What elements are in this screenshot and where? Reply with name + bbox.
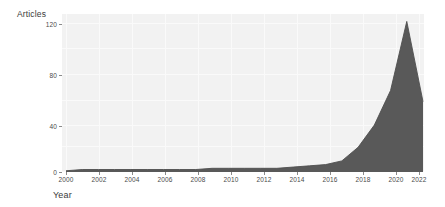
x-axis-tick: 2016	[315, 172, 345, 183]
y-axis-tick: 80	[50, 70, 62, 80]
area-series-fill	[66, 21, 423, 172]
area-chart: Articles 120 80 40 0	[0, 0, 445, 207]
x-axis-tick-label: 2008	[183, 176, 213, 183]
x-axis-tick-mark	[132, 172, 133, 175]
x-axis-tick: 2008	[183, 172, 213, 183]
plot-area	[62, 14, 424, 172]
x-axis-tick-mark	[396, 172, 397, 175]
x-axis-tick-mark	[363, 172, 364, 175]
x-axis-tick: 2014	[282, 172, 312, 183]
x-axis-tick-label: 2014	[282, 176, 312, 183]
y-axis-tick: 40	[50, 121, 62, 131]
x-axis-tick: 2006	[150, 172, 180, 183]
x-axis-tick: 2004	[117, 172, 147, 183]
area-series	[62, 14, 424, 172]
x-axis-tick-label: 2000	[51, 176, 81, 183]
x-axis-tick-label: 2022	[404, 176, 434, 183]
x-axis-tick-label: 2004	[117, 176, 147, 183]
x-axis-tick-mark	[165, 172, 166, 175]
x-axis-tick: 2010	[216, 172, 246, 183]
x-axis-tick-group: 2000 2002 2004 2006 2008 2010 2012 2014	[62, 172, 424, 192]
x-axis-tick-mark	[330, 172, 331, 175]
x-axis-tick-label: 2006	[150, 176, 180, 183]
x-axis-tick-mark	[66, 172, 67, 175]
y-axis-tick-label: 120	[46, 21, 57, 28]
x-axis-tick-label: 2016	[315, 176, 345, 183]
x-axis-tick-label: 2012	[249, 176, 279, 183]
x-axis-tick: 2018	[348, 172, 378, 183]
x-axis-tick: 2022	[404, 172, 434, 183]
y-axis-tick-label: 80	[50, 72, 57, 79]
x-axis-tick-mark	[264, 172, 265, 175]
y-axis-tick: 120	[46, 19, 62, 29]
x-axis-tick-label: 2018	[348, 176, 378, 183]
x-axis-tick: 2002	[84, 172, 114, 183]
x-axis-tick-mark	[297, 172, 298, 175]
x-axis-tick: 2000	[51, 172, 81, 183]
x-axis-tick-mark	[198, 172, 199, 175]
x-axis-tick-mark	[231, 172, 232, 175]
x-axis-tick-mark	[419, 172, 420, 175]
x-axis-tick-mark	[99, 172, 100, 175]
x-axis-tick: 2012	[249, 172, 279, 183]
y-axis-tick-label: 40	[50, 123, 57, 130]
x-axis-tick-label: 2010	[216, 176, 246, 183]
x-axis-tick-label: 2002	[84, 176, 114, 183]
x-axis-title: Year	[53, 190, 72, 200]
